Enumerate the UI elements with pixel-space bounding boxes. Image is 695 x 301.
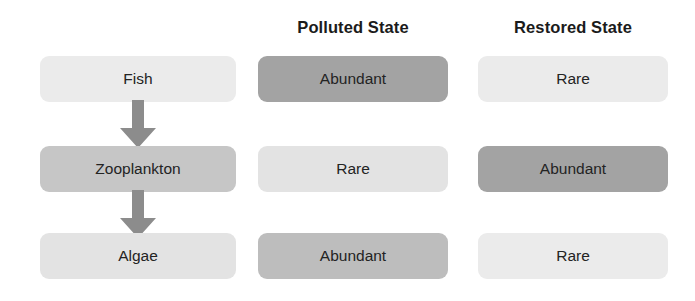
state-box-polluted-algae: Abundant	[258, 233, 448, 279]
diagram-canvas: Polluted State Restored State Fish Abund…	[0, 0, 695, 301]
state-box-restored-algae: Rare	[478, 233, 668, 279]
organism-box-fish: Fish	[40, 56, 236, 102]
column-header-polluted-state: Polluted State	[258, 18, 448, 37]
state-box-restored-fish: Rare	[478, 56, 668, 102]
state-box-polluted-zooplankton: Rare	[258, 146, 448, 192]
state-box-polluted-fish: Abundant	[258, 56, 448, 102]
state-box-restored-zooplankton: Abundant	[478, 146, 668, 192]
column-header-restored-state: Restored State	[478, 18, 668, 37]
arrow-down-zooplankton-to-algae	[120, 190, 156, 238]
organism-box-algae: Algae	[40, 233, 236, 279]
arrow-down-fish-to-zooplankton	[120, 100, 156, 148]
arrow-down-icon	[120, 100, 156, 148]
arrow-down-icon	[120, 190, 156, 238]
organism-box-zooplankton: Zooplankton	[40, 146, 236, 192]
